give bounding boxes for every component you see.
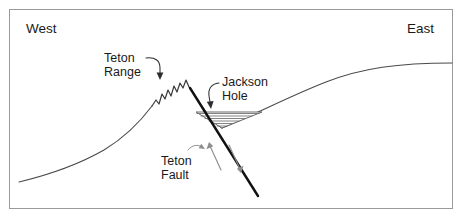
jackson-hole-label-line1: Jackson — [222, 75, 268, 89]
cross-section-figure: West East Teton Range Jackson Hole Teton… — [0, 0, 462, 218]
jackson-hole-label-line2: Hole — [222, 89, 248, 103]
teton-range-label-line2: Range — [104, 65, 141, 79]
figure-frame — [10, 10, 453, 209]
teton-fault-label-line2: Fault — [161, 168, 189, 182]
cross-section-canvas: West East Teton Range Jackson Hole Teton… — [0, 0, 462, 218]
compass-label-east: East — [407, 21, 434, 36]
compass-label-west: West — [26, 21, 57, 36]
teton-range-label-line1: Teton — [104, 51, 135, 65]
teton-fault-label-line1: Teton — [161, 154, 192, 168]
